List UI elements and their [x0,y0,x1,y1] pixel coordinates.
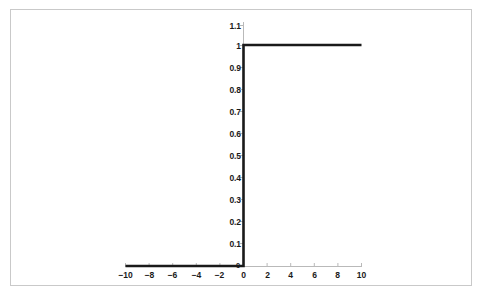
y-tick-label-0: 0 [236,261,240,270]
y-tick-label-0.6: 0.6 [200,129,241,139]
y-tick-label-0.5: 0.5 [200,151,241,161]
y-tick-label-0.8: 0.8 [200,85,241,95]
x-tick-label-10: 10 [347,270,376,280]
y-tick-label-0.9: 0.9 [200,63,241,73]
y-tick-label-1.1: 1.1 [200,21,241,31]
y-tick-label-0.7: 0.7 [200,107,241,117]
plot-area: 1.1 1 0.9 0.8 0.7 0.6 0.5 0.4 0.3 0.2 0.… [0,0,485,299]
y-tick-label-0.3: 0.3 [200,195,241,205]
y-tick-label-1: 1 [200,41,241,51]
y-tick-label-0.2: 0.2 [200,217,241,227]
step-function-chart [0,0,485,299]
y-tick-label-0.1: 0.1 [200,239,241,249]
figure-container: 1.1 1 0.9 0.8 0.7 0.6 0.5 0.4 0.3 0.2 0.… [0,0,485,299]
y-tick-label-0.4: 0.4 [200,173,241,183]
step-function-line [126,45,362,266]
